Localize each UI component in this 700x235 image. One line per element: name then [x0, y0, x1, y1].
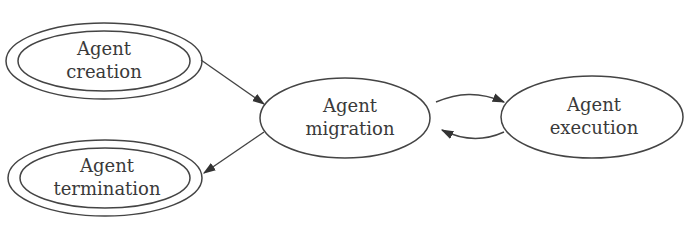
- edge-execution-to-migration-arrow-icon: [442, 130, 504, 139]
- agent-execution-label-line2: execution: [550, 117, 639, 138]
- edge-migration-to-termination-arrow-icon: [204, 132, 264, 173]
- agent-creation-label-line1: Agent: [76, 38, 132, 59]
- node-agent-migration: Agent migration: [260, 78, 430, 158]
- edge-migration-to-execution-arrow-icon: [436, 94, 504, 102]
- edge-creation-to-migration-arrow-icon: [201, 60, 264, 104]
- agent-execution-label-line1: Agent: [566, 94, 622, 115]
- agent-lifecycle-diagram: Agent creation Agent termination Agent m…: [0, 0, 700, 235]
- agent-termination-label-line1: Agent: [79, 155, 135, 176]
- agent-migration-label-line1: Agent: [322, 95, 378, 116]
- node-agent-creation: Agent creation: [6, 23, 202, 99]
- node-agent-execution: Agent execution: [501, 76, 683, 158]
- agent-creation-label-line2: creation: [66, 61, 142, 82]
- agent-migration-label-line2: migration: [305, 118, 395, 139]
- agent-termination-label-line2: termination: [53, 178, 160, 199]
- node-agent-termination: Agent termination: [8, 140, 202, 216]
